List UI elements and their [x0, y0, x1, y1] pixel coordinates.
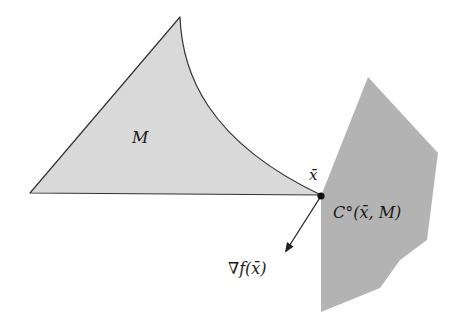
- set-m-region: [30, 17, 321, 195]
- point-x-bar: [317, 192, 324, 199]
- label-gradient: ∇f(x̄): [228, 259, 267, 278]
- polar-cone-region: [321, 77, 438, 312]
- label-set-m: M: [131, 128, 149, 147]
- label-point-x-bar: x̄: [309, 166, 318, 184]
- label-polar-cone: C°(x̄, M): [333, 203, 401, 222]
- diagram-canvas: M x̄ C°(x̄, M) ∇f(x̄): [0, 0, 461, 328]
- gradient-arrow: [286, 196, 321, 251]
